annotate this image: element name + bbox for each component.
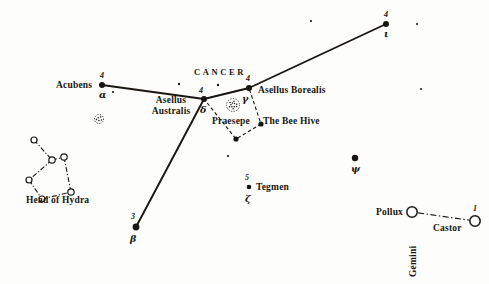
greek-letter-psi-cancri: ψ <box>351 164 360 174</box>
praesepe-symbol-dot-0 <box>236 106 238 108</box>
magnitude-tegmen: 5 <box>245 174 249 182</box>
constellation-line-asellus-australis-to-beta-cancri <box>136 99 204 227</box>
faint-star-5 <box>416 23 418 25</box>
star-label-asellus-borealis: Asellus Borealis <box>258 86 326 96</box>
unnamed-cluster <box>95 115 104 124</box>
greek-letter-zeta-cancri: ζ <box>245 194 251 204</box>
star-chart-canvas <box>0 0 489 284</box>
star-iota-cancri <box>383 21 389 27</box>
annotation-head-of-hydra: Head of Hydra <box>26 196 89 206</box>
hydra-star-1 <box>49 157 55 163</box>
star-label-asellus-australis: Asellus Australis <box>140 95 202 116</box>
star-label-pollux: Pollux <box>376 208 403 218</box>
hydra-link-2 <box>29 160 52 180</box>
hydra-star-2 <box>61 154 67 160</box>
praesepe-symbol-dot-9 <box>234 103 236 105</box>
gemini-link-line-segment <box>418 213 469 220</box>
praesepe-quadrilateral <box>204 88 261 139</box>
unnamed-cluster-dot-3 <box>98 117 100 119</box>
star-label-asellus-australis-line2: Australis <box>140 106 202 117</box>
unnamed-cluster-dot-2 <box>96 119 98 121</box>
unnamed-cluster-ring <box>95 115 104 124</box>
praesepe-symbol-dot-2 <box>232 108 234 110</box>
star-pollux <box>407 207 417 217</box>
greek-letter-beta-cancri: β <box>130 234 136 244</box>
greek-letter-iota-cancri: ι <box>384 29 389 39</box>
magnitude-asellus-australis: 4 <box>199 87 203 95</box>
praesepe-symbol <box>227 99 240 112</box>
star-psi-cancri <box>352 155 358 161</box>
star-label-castor: Castor <box>433 224 462 234</box>
star-asellus-borealis <box>246 85 252 91</box>
annotation-gemini: Gemini <box>409 246 419 277</box>
faint-star-6 <box>420 88 422 90</box>
faint-star-4 <box>310 20 312 22</box>
constellation-line-asellus-borealis-to-iota-cancri <box>249 24 386 88</box>
praesepe-symbol-dot-6 <box>229 102 231 104</box>
greek-letter-gamma-cancri: γ <box>242 94 248 104</box>
hydra-lines <box>29 140 71 199</box>
praesepe-symbol-dot-1 <box>233 106 235 108</box>
unnamed-cluster-dot-1 <box>98 120 100 122</box>
faint-star-2 <box>217 84 219 86</box>
hydra-star-3 <box>26 177 32 183</box>
hydra-link-5 <box>64 157 71 192</box>
magnitude-castor: 1 <box>473 205 477 213</box>
faint-star-0 <box>112 91 114 93</box>
greek-letter-alpha-cancri: α <box>99 90 106 100</box>
constellation-title-cancer: CANCER <box>194 68 246 77</box>
faint-star-3 <box>227 155 229 157</box>
star-label-asellus-australis-line1: Asellus <box>140 95 202 106</box>
faint-star-1 <box>178 83 180 85</box>
magnitude-asellus-borealis: 4 <box>246 75 250 83</box>
praesepe-symbol-dot-3 <box>231 106 233 108</box>
annotation-bee-hive: The Bee Hive <box>263 117 320 127</box>
hydra-star-0 <box>31 137 37 143</box>
unnamed-cluster-dot-0 <box>101 119 103 121</box>
magnitude-iota-cancri: 4 <box>384 11 388 19</box>
star-beta-cancri <box>133 224 140 231</box>
annotation-praesepe: Praesepe <box>212 117 250 127</box>
praesepe-symbol-dot-10 <box>236 104 238 106</box>
praesepe-symbol-dot-4 <box>229 106 231 108</box>
praesepe-symbol-dot-8 <box>233 101 235 103</box>
star-label-acubens: Acubens <box>56 81 92 91</box>
star-chart-figure: CANCER Acubens 4 α Asellus Australis 4 δ… <box>0 0 489 284</box>
praesepe-symbol-dot-5 <box>230 104 232 106</box>
greek-letter-delta-cancri: δ <box>200 105 206 115</box>
praesepe-corner-star-2 <box>233 136 238 141</box>
star-castor <box>470 216 480 226</box>
unnamed-cluster-dot-4 <box>100 116 102 118</box>
gemini-link-line <box>418 213 469 220</box>
hydra-link-0 <box>34 140 52 160</box>
magnitude-beta-cancri: 3 <box>131 213 135 221</box>
star-acubens <box>99 82 105 88</box>
praesepe-symbol-dot-7 <box>232 102 234 104</box>
star-label-tegmen: Tegmen <box>256 183 289 193</box>
magnitude-acubens: 4 <box>100 72 104 80</box>
star-tegmen <box>247 185 252 190</box>
praesepe-symbol-ring <box>227 99 240 112</box>
